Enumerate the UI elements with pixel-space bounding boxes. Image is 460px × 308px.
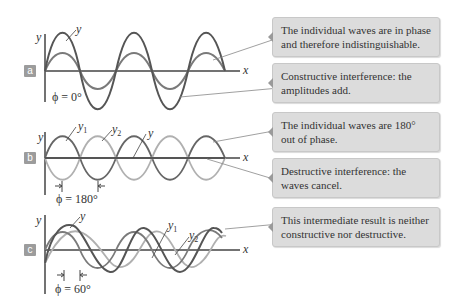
note-destructive: Destructive interference: the waves canc… [272,158,440,198]
curve-label-y: y [148,126,153,141]
x-axis-label: x [243,242,248,257]
curve-label-y1: y1 [168,218,177,234]
phase-label: ϕ = 0° [52,90,82,105]
note-in-phase: The individual waves are in phase and th… [272,17,440,57]
curve-label-y: y [80,209,85,224]
curve-label-y: y [76,22,81,37]
note-constructive: Constructive interference: the amplitude… [272,63,440,103]
note-intermediate: This intermediate result is neither cons… [272,207,440,247]
panel-b-graph [45,127,290,195]
panel-label-c: c [24,244,36,256]
panel-label-b: b [24,152,36,164]
x-axis-label: x [243,63,248,78]
y-axis-label: y [38,130,43,145]
x-axis-label: x [243,150,248,165]
curve-label-y2: y2 [112,122,121,138]
y-axis-label: y [36,30,41,45]
y-axis-label: y [36,213,41,228]
phase-label: ϕ = 180° [56,192,98,207]
phase-label: ϕ = 60° [55,282,91,297]
curve-label-y1: y1 [78,119,87,135]
panel-label-a: a [24,65,36,77]
note-out-of-phase: The individual waves are 180° out of pha… [272,112,440,152]
curve-label-y2: y2 [189,228,198,244]
